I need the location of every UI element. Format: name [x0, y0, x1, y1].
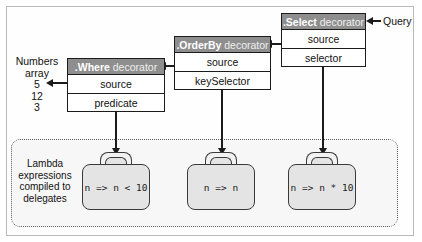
connector-predicate-to-lambda [115, 112, 117, 150]
select-decorator-name: .Select [283, 16, 317, 28]
lambda-caption-line-3: delegates [12, 193, 78, 205]
select-row-selector[interactable]: selector [282, 48, 365, 66]
connector-keyselector-to-lambda [221, 90, 223, 150]
lambda-briefcase-selector[interactable]: n => n * 10 [288, 152, 356, 210]
where-decorator-header: .Where decorator [68, 59, 164, 75]
select-decorator-header: .Select decorator [282, 14, 365, 30]
select-decorator-box[interactable]: .Select decorator source selector [281, 13, 366, 67]
orderby-row-keyselector[interactable]: keySelector [175, 71, 270, 89]
diagram-canvas: Numbers array 5 12 3 .Where decorator so… [0, 0, 422, 242]
lambda-region-caption: Lambda expressions compiled to delegates [12, 158, 78, 204]
lambda-caption-line-1: expressions [12, 170, 78, 182]
numbers-array-value-0: 5 [10, 79, 64, 91]
numbers-array-title-line1: Numbers [10, 56, 64, 68]
lambda-caption-line-0: Lambda [12, 158, 78, 170]
where-decorator-box[interactable]: .Where decorator source predicate [67, 58, 165, 112]
connector-selector-to-lambda [322, 67, 324, 150]
where-row-predicate[interactable]: predicate [68, 93, 164, 111]
orderby-decorator-header: .OrderBy decorator [175, 37, 270, 53]
orderby-decorator-name: .OrderBy [176, 39, 221, 51]
where-decorator-name: .Where [75, 61, 110, 73]
lambda-caption-line-2: compiled to [12, 181, 78, 193]
lambda-expression-selector: n => n * 10 [288, 164, 356, 210]
arrowhead-query-to-select [366, 17, 373, 25]
where-row-source[interactable]: source [68, 75, 164, 93]
where-decorator-suffix: decorator [113, 61, 157, 73]
lambda-expression-predicate: n => n < 10 [82, 164, 150, 210]
orderby-row-source[interactable]: source [175, 53, 270, 71]
connector-select-to-orderby [271, 43, 281, 45]
select-decorator-suffix: decorator [320, 16, 364, 28]
lambda-expression-keyselector: n => n [187, 164, 255, 210]
orderby-decorator-suffix: decorator [224, 39, 268, 51]
lambda-briefcase-keyselector[interactable]: n => n [187, 152, 255, 210]
select-row-source[interactable]: source [282, 30, 365, 48]
numbers-array-label: Numbers array 5 12 3 [10, 56, 64, 114]
numbers-array-value-2: 3 [10, 102, 64, 114]
query-label: Query [383, 15, 412, 27]
orderby-decorator-box[interactable]: .OrderBy decorator source keySelector [174, 36, 271, 90]
lambda-briefcase-predicate[interactable]: n => n < 10 [82, 152, 150, 210]
